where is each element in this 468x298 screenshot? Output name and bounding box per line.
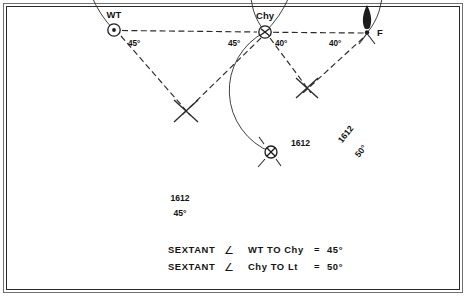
station-marker-f[interactable] xyxy=(359,5,375,44)
circle-arc-lens xyxy=(229,32,271,152)
legend-value-2: 50° xyxy=(327,261,343,272)
station-label-wt: WT xyxy=(107,9,122,20)
legend-value-1: 45° xyxy=(327,244,343,255)
fix-ray-upper-left xyxy=(259,137,264,144)
center-x-mark-right xyxy=(296,78,318,98)
legend-term-2: SEXTANT xyxy=(168,261,215,272)
angle-symbol-icon-2: ∠ xyxy=(224,261,234,273)
fix-marker[interactable] xyxy=(265,146,277,158)
legend-equals-1: = xyxy=(314,244,320,255)
legend-equals-2: = xyxy=(314,261,320,272)
legend-subject-1: WT TO Chy xyxy=(248,244,304,255)
legend-row-1: SEXTANT ∠ WT TO Chy = 45° xyxy=(168,244,343,256)
arc-label-right-angle: 50° xyxy=(353,143,369,160)
fix-ray-lower-left xyxy=(258,159,265,167)
angle-label-chy-45: 45° xyxy=(228,39,240,48)
navigation-fix-diagram: WT Chy F 45° 45° 40° 40° 1612 45° 1612 1… xyxy=(0,0,468,298)
baseline-wt-chy xyxy=(122,31,257,33)
station-marker-wt[interactable] xyxy=(108,24,120,36)
arc-label-right-time: 1612 xyxy=(336,123,356,144)
fix-ray-lower-right xyxy=(276,159,281,166)
angle-symbol-icon-1: ∠ xyxy=(224,244,234,256)
angle-label-chy-40: 40° xyxy=(275,39,287,48)
baseline-chy-f xyxy=(273,32,364,33)
station-marker-chy[interactable] xyxy=(259,26,271,38)
arc-label-mid-time: 1612 xyxy=(291,138,310,148)
legend-subject-2: Chy TO Lt xyxy=(248,261,298,272)
angle-label-wt-45: 45° xyxy=(128,39,140,48)
arc-label-left-time: 1612 xyxy=(170,193,189,203)
angle-label-f-40: 40° xyxy=(329,39,341,48)
station-label-chy: Chy xyxy=(256,10,275,21)
station-label-f: F xyxy=(377,27,383,38)
legend-term-1: SEXTANT xyxy=(168,244,215,255)
diagram-canvas: WT Chy F 45° 45° 40° 40° 1612 45° 1612 1… xyxy=(0,0,468,298)
center-x-mark-left xyxy=(174,100,198,122)
arc-label-left-angle: 45° xyxy=(174,208,188,218)
legend-row-2: SEXTANT ∠ Chy TO Lt = 50° xyxy=(168,261,343,273)
